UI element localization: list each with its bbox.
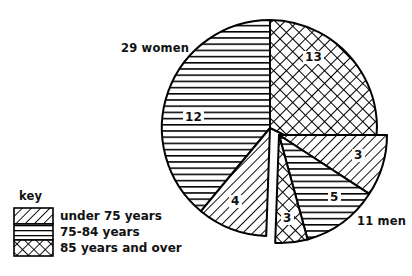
slice-value-text: 3: [352, 149, 365, 162]
slice-value-men-75-84: 5: [328, 190, 341, 204]
slice-value-text: 13: [303, 51, 324, 64]
key-swatch-horizontal: [14, 224, 53, 240]
key-label-75-84: 75-84 years: [60, 225, 140, 239]
group-label-men: 11 men: [357, 214, 406, 228]
slice-value-text: 12: [183, 111, 204, 124]
slice-value-men-under75: 3: [352, 148, 365, 162]
slice-value-text: 5: [328, 191, 341, 204]
key-label-under-75: under 75 years: [60, 209, 162, 223]
key-swatch-box: [14, 208, 53, 256]
slice-value-text: 4: [229, 195, 242, 208]
slice-value-women-75-84: 12: [183, 110, 204, 124]
group-label-women: 29 women: [121, 41, 189, 55]
slice-value-women-under75: 4: [229, 194, 242, 208]
key-swatch-crosshatch: [14, 240, 53, 256]
key-title: key: [19, 189, 42, 203]
slice-value-women-85plus: 13: [303, 50, 324, 64]
key-swatch-diagonal: [14, 208, 53, 224]
slice-value-text: 3: [281, 212, 294, 225]
key-label-85-and-over: 85 years and over: [60, 241, 182, 255]
pie-chart-figure: 29 women 11 men 13 12 4 3 5 3 key under …: [0, 0, 412, 276]
slice-value-men-85plus: 3: [281, 211, 294, 225]
